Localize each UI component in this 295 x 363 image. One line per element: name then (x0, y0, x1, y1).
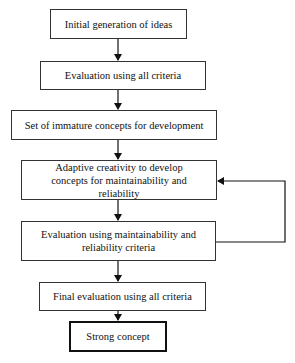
node-label: Adaptive creativity to develop concepts … (36, 161, 202, 200)
node-label: Set of immature concepts for development (25, 119, 204, 132)
feedback-loop-arrow (216, 181, 285, 242)
node-final-evaluation: Final evaluation using all criteria (39, 282, 206, 311)
node-initial-generation: Initial generation of ideas (50, 9, 187, 39)
node-immature-concepts: Set of immature concepts for development (11, 110, 217, 140)
node-evaluation-all-criteria: Evaluation using all criteria (40, 61, 206, 90)
node-label: Final evaluation using all criteria (53, 290, 192, 303)
node-adaptive-creativity: Adaptive creativity to develop concepts … (21, 160, 217, 200)
node-evaluation-maintainability: Evaluation using maintainability and rel… (21, 221, 216, 261)
node-label: Evaluation using maintainability and rel… (40, 228, 197, 254)
node-strong-concept: Strong concept (69, 321, 167, 352)
node-label: Initial generation of ideas (65, 18, 173, 31)
node-label: Evaluation using all criteria (65, 69, 181, 82)
node-label: Strong concept (86, 330, 149, 343)
